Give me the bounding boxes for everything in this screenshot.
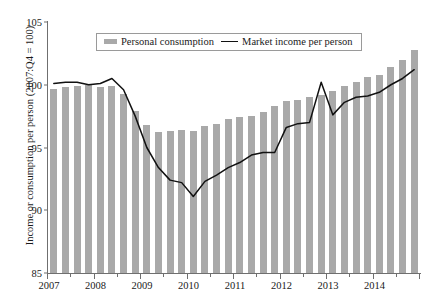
x-tick-mark-major [419,274,420,279]
x-tick-mark-minor [256,274,257,277]
x-tick-label-2014: 2014 [364,280,385,291]
x-tick-mark-minor [163,274,164,277]
plot-area: 859095100105 [48,22,420,273]
bar-swatch-icon [104,39,117,44]
x-tick-mark-minor [303,274,304,277]
x-tick-mark-major [47,274,48,279]
line-series-market-income [48,22,420,273]
x-tick-mark-major [94,274,95,279]
line-swatch-icon [221,41,238,42]
x-tick-mark-minor [210,274,211,277]
legend-entry-market-income: Market income per person [221,36,353,47]
x-tick-label-2007: 2007 [39,280,60,291]
x-tick-label-2012: 2012 [271,280,292,291]
market-income-polyline [54,70,414,197]
x-tick-mark-major [140,274,141,279]
y-axis-title: Income or consumption per person (2007:Q… [24,11,35,261]
x-tick-mark-major [187,274,188,279]
x-tick-label-2008: 2008 [85,280,106,291]
clipped-title-sliver [0,0,430,8]
chart-legend: Personal consumption Market income per p… [96,33,362,51]
x-tick-label-2013: 2013 [318,280,339,291]
x-tick-mark-minor [396,274,397,277]
x-tick-mark-minor [117,274,118,277]
x-tick-label-2009: 2009 [132,280,153,291]
x-tick-mark-minor [349,274,350,277]
x-tick-mark-major [280,274,281,279]
x-tick-mark-major [233,274,234,279]
x-tick-label-2010: 2010 [178,280,199,291]
legend-entry-personal-consumption: Personal consumption [104,36,214,47]
legend-label-personal-consumption: Personal consumption [121,36,214,47]
x-tick-mark-minor [70,274,71,277]
x-axis-ticks: 20072008200920102011201220132014 [47,274,421,298]
x-tick-mark-major [373,274,374,279]
x-tick-mark-major [326,274,327,279]
chart-figure: Income or consumption per person (2007:Q… [0,0,430,306]
x-tick-label-2011: 2011 [225,280,246,291]
legend-label-market-income: Market income per person [242,36,353,47]
